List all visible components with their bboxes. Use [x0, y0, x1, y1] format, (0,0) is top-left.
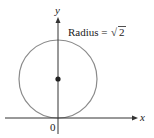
x-axis-label: x	[139, 111, 145, 123]
radius-annotation-text: Radius =	[68, 26, 108, 38]
center-point	[55, 76, 60, 81]
radius-value: 2	[119, 26, 125, 38]
sqrt-icon: √	[111, 26, 118, 38]
circle-diagram: y x 0 Radius = √ 2	[0, 0, 154, 138]
y-axis-arrow-icon	[56, 17, 61, 23]
y-axis-label: y	[54, 4, 60, 16]
x-axis-arrow-icon	[132, 116, 138, 121]
origin-label: 0	[50, 121, 56, 133]
